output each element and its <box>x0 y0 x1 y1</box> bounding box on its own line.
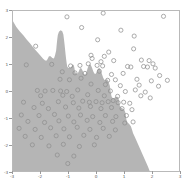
y-axis-tick <box>9 91 12 92</box>
x-axis-tick-label: -2 <box>38 174 42 179</box>
x-axis-tick-label: 1 <box>123 174 126 179</box>
x-axis-tick-label: 0 <box>95 174 98 179</box>
x-axis-tick-label: -3 <box>10 174 14 179</box>
decision-region-layer <box>13 11 179 171</box>
x-axis-tick-label: 3 <box>179 174 182 179</box>
y-axis-tick-label: -2 <box>4 143 8 148</box>
x-axis-tick-label: -1 <box>66 174 70 179</box>
x-axis-tick-label: 2 <box>151 174 154 179</box>
y-axis-tick-label: 1 <box>5 62 8 67</box>
decision-region-shaded <box>13 21 150 171</box>
y-axis-tick <box>9 172 12 173</box>
y-axis-tick <box>9 37 12 38</box>
y-axis-tick <box>9 64 12 65</box>
y-axis-tick-label: 2 <box>5 35 8 40</box>
y-axis-tick-label: 0 <box>5 89 8 94</box>
y-axis-tick <box>9 10 12 11</box>
figure-canvas: -3-2-10123-3-2-10123 <box>0 0 191 185</box>
y-axis-tick-label: -3 <box>4 170 8 175</box>
y-axis-tick-label: -1 <box>4 116 8 121</box>
y-axis-tick-label: 3 <box>5 8 8 13</box>
y-axis-tick <box>9 145 12 146</box>
plot-axes-frame <box>12 10 180 172</box>
y-axis-tick <box>9 118 12 119</box>
